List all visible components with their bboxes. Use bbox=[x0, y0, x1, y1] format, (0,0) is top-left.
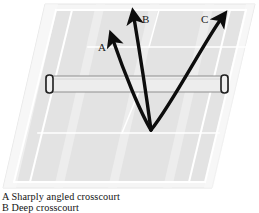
net-post-right bbox=[221, 75, 228, 93]
court-illustration: A B C bbox=[0, 0, 259, 192]
shot-label-c: C bbox=[201, 13, 208, 25]
caption-line-a: A Sharply angled crosscourt bbox=[2, 191, 257, 202]
shot-label-b: B bbox=[142, 13, 149, 25]
shot-label-a: A bbox=[98, 41, 106, 53]
caption-line-b: B Deep crosscourt bbox=[2, 202, 257, 213]
net bbox=[46, 75, 228, 93]
tennis-shot-diagram-figure: A B C A Sharply angled crosscourt B Deep… bbox=[0, 0, 259, 213]
net-post-left bbox=[46, 75, 53, 93]
figure-caption: A Sharply angled crosscourt B Deep cross… bbox=[2, 191, 257, 213]
